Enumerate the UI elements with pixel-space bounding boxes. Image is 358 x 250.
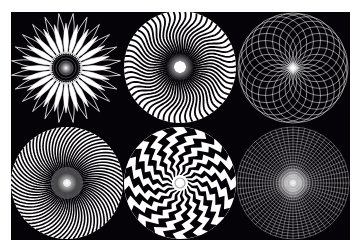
op-art-illustration	[11, 12, 350, 240]
wavy-radial-spiral-pattern	[124, 12, 236, 123]
flower-petal-rosette-pattern	[12, 14, 121, 123]
dotted-radial-grid-pattern	[237, 127, 349, 239]
zigzag-checker-spiral-pattern	[124, 127, 236, 239]
interlaced-circle-lattice-pattern	[238, 13, 348, 123]
artwork-panel	[11, 12, 350, 240]
twisted-ray-disc-pattern	[11, 127, 123, 239]
